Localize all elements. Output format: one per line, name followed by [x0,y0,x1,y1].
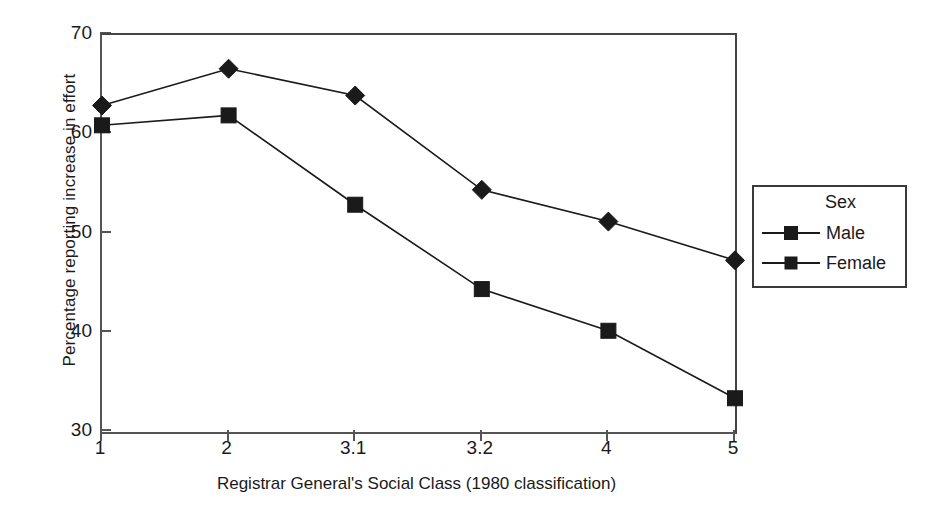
legend-box: Sex Male Female [752,185,907,288]
data-point-square [728,391,743,406]
data-point-square [474,282,489,297]
legend-item-male[interactable]: Male [760,220,865,246]
data-point-diamond [599,212,618,231]
data-point-square [95,118,110,133]
y-tick-label: 50 [0,221,92,243]
x-axis-title: Registrar General's Social Class (1980 c… [100,474,733,494]
legend-title: Sex [754,192,905,213]
series-line-male [102,69,735,261]
data-point-diamond [346,86,365,105]
y-tick-label: 30 [0,419,92,441]
y-tick-label: 40 [0,320,92,342]
legend-label-female: Female [826,253,886,274]
data-point-square [601,323,616,338]
y-tick-label: 60 [0,121,92,143]
legend-symbol-male [760,222,822,244]
plot-area [100,33,737,434]
data-point-square [348,197,363,212]
diamond-marker-icon [784,226,798,240]
data-point-diamond [93,96,112,115]
legend-label-male: Male [826,223,865,244]
series-canvas [102,35,735,432]
chart-figure: Percentage reporting increase in effort … [0,0,931,525]
data-point-diamond [219,59,238,78]
data-point-square [221,108,236,123]
legend-item-female[interactable]: Female [760,250,886,276]
legend-symbol-female [760,252,822,274]
square-marker-icon [785,257,798,270]
series-line-female [102,115,735,398]
data-point-diamond [726,251,745,270]
data-point-diamond [472,180,491,199]
y-tick-label: 70 [0,22,92,44]
